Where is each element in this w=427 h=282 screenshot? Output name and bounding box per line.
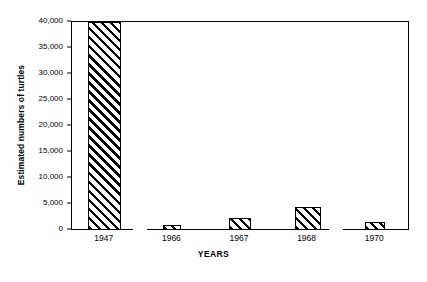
- y-tick-label: 25,000: [19, 95, 63, 103]
- y-tick-label: 5,000: [19, 199, 63, 207]
- x-axis-title: YEARS: [0, 249, 427, 259]
- y-tick-label: 35,000: [19, 43, 63, 51]
- bar-1968: [295, 207, 321, 230]
- baseline-segment: [343, 229, 409, 230]
- baseline-segment: [147, 229, 329, 230]
- y-tick-label: 15,000: [19, 147, 63, 155]
- y-tick-label: 10,000: [19, 173, 63, 181]
- x-tick-label: 1967: [209, 233, 269, 243]
- x-tick-label: 1970: [344, 233, 404, 243]
- x-tick-label: 1966: [141, 233, 201, 243]
- baseline-segment: [71, 229, 133, 230]
- y-tick-label: 30,000: [19, 69, 63, 77]
- plot-area: [71, 21, 409, 229]
- y-tick-label: 40,000: [19, 17, 63, 25]
- y-tick-label: 20,000: [19, 121, 63, 129]
- y-tick-label: 0: [19, 225, 63, 233]
- x-tick-label: 1947: [74, 233, 134, 243]
- bar-chart-figure: Estimated numbers of turtles 05,00010,00…: [0, 0, 427, 282]
- x-tick-label: 1968: [277, 233, 337, 243]
- bar-1947: [88, 22, 121, 230]
